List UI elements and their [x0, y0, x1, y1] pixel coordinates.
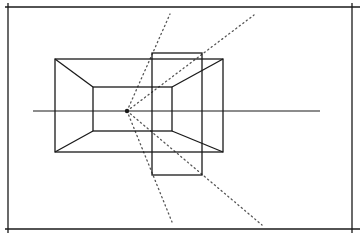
depth-edge-line: [55, 131, 93, 152]
dotted-ray: [127, 15, 254, 111]
overlay-rectangle: [152, 53, 202, 175]
depth-edge-line: [55, 59, 93, 87]
vanishing-rays: [127, 14, 262, 225]
dotted-ray: [127, 111, 262, 225]
depth-edge-line: [172, 131, 223, 152]
picture-frame: [5, 3, 360, 233]
perspective-diagram: [0, 0, 362, 237]
box-depth-edges: [55, 59, 223, 152]
dotted-ray: [127, 14, 170, 111]
vanishing-point: [125, 109, 129, 113]
dotted-ray: [127, 111, 172, 222]
depth-edge-line: [172, 59, 223, 87]
